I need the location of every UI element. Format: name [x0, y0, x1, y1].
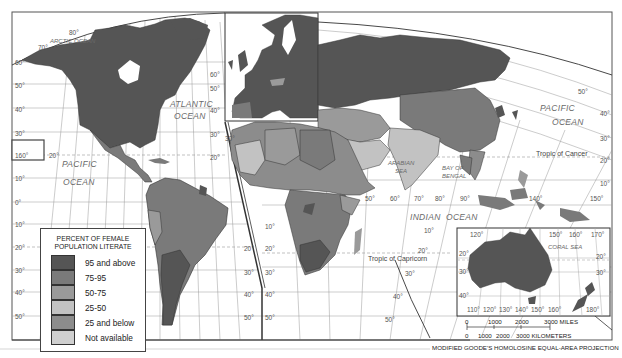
legend-label: 25 and below — [85, 318, 134, 328]
lat-label: 50° — [15, 83, 25, 90]
arctic-ocean-label: ARCTIC OCEAN — [50, 38, 95, 44]
legend-item: 95 and above — [51, 255, 135, 270]
lon-label: 180° — [586, 307, 599, 314]
lat-label: 50° — [385, 317, 395, 324]
legend: PERCENT OF FEMALE POPULATION LITERATE 95… — [40, 228, 146, 352]
indian-ocean-label-2: OCEAN — [446, 213, 478, 222]
scale-label: 1000 — [478, 332, 492, 339]
lat-label: 40° — [393, 294, 403, 301]
atlantic-ocean-label-2: OCEAN — [174, 112, 206, 121]
lat-label: 40° — [600, 111, 610, 118]
legend-item: 25 and below — [51, 315, 134, 330]
pacific-west-label-1: PACIFIC — [62, 160, 97, 169]
legend-swatch — [51, 285, 75, 300]
lat-label: 10° — [15, 222, 25, 229]
lat-label: 30° — [225, 136, 235, 143]
lat-label: 30° — [405, 271, 415, 278]
lon-label: 150° — [549, 232, 562, 239]
lon-label: 140° — [515, 307, 528, 314]
lat-label: 20° — [244, 246, 254, 253]
lat-label: 20° — [210, 155, 220, 162]
lat-label: 70° — [38, 45, 48, 52]
indian-10-label: 10° — [424, 228, 434, 235]
lat-label: 40° — [210, 108, 220, 115]
arabian-sea-label-1: ARABIAN — [388, 160, 414, 166]
lat-label: 40° — [459, 293, 469, 300]
scale-label: 2000 — [496, 332, 510, 339]
india — [388, 128, 440, 190]
lon-label: 120° — [483, 307, 496, 314]
lat-label: 30° — [600, 136, 610, 143]
legend-label: 25-50 — [85, 303, 106, 313]
lon-label: 150° — [590, 196, 603, 203]
lat-label: 30° — [15, 131, 25, 138]
arabian-sea-label-2: SEA — [395, 168, 407, 174]
lat-label: 50° — [244, 315, 254, 322]
lon-label: 170° — [591, 232, 604, 239]
lat-label: 50° — [265, 315, 275, 322]
pacific-west-label-2: OCEAN — [63, 178, 95, 187]
lat-label: 20° — [418, 248, 428, 255]
scale-label: 3000 KILOMETERS — [516, 332, 571, 339]
coral-sea-label: CORAL SEA — [548, 244, 582, 250]
projection-label: MODIFIED GOODE'S HOMOLOSINE EQUAL-AREA P… — [432, 344, 619, 351]
lat-label: 10° — [15, 176, 25, 183]
madagascar — [354, 228, 362, 255]
lat-label: 40° — [265, 292, 275, 299]
legend-item: Not available — [51, 330, 133, 345]
lon-label: 70° — [414, 196, 424, 203]
scale-label: 2000 — [515, 318, 529, 325]
lat-label: 50° — [578, 89, 588, 96]
lat-label: 40° — [15, 107, 25, 114]
lat-label: 40° — [15, 290, 25, 297]
atlantic-ocean-label-1: ATLANTIC — [170, 100, 213, 109]
lon-label: 120° — [470, 232, 483, 239]
lat-label: 60° — [15, 60, 25, 67]
lon-label: 110° — [467, 307, 480, 314]
legend-swatch — [51, 270, 75, 285]
tropic-of-capricorn-label: Tropic of Capricorn — [368, 255, 427, 262]
legend-swatch — [51, 300, 75, 315]
lon-label: 90° — [460, 196, 470, 203]
lat-label: 30° — [210, 132, 220, 139]
lat-label: 50° — [210, 86, 220, 93]
lat-label: 30° — [15, 268, 25, 275]
lat-label: 0° — [15, 200, 21, 207]
tropic-of-cancer-label: Tropic of Cancer — [536, 150, 587, 157]
legend-label: 50-75 — [85, 288, 106, 298]
lat-label: 20° — [600, 158, 610, 165]
lat-label: 10° — [600, 181, 610, 188]
lat-label: 30° — [265, 270, 275, 277]
lat-label: 30° — [244, 270, 254, 277]
legend-item: 25-50 — [51, 300, 106, 315]
legend-label: 95 and above — [85, 258, 135, 268]
lat-label: 50° — [15, 314, 25, 321]
lon-label: 50° — [365, 196, 375, 203]
scale-bar — [467, 323, 550, 330]
lat-label: 20° — [596, 254, 606, 261]
legend-title-line2: POPULATION LITERATE — [41, 243, 145, 251]
lon-label: 60° — [390, 196, 400, 203]
bay-of-bengal-label-1: BAY OF — [442, 165, 463, 171]
lat-label: 30° — [459, 269, 469, 276]
lon-label: 140° — [529, 196, 542, 203]
lon-label: 130° — [499, 307, 512, 314]
lon-label: 150° — [531, 307, 544, 314]
lat-label: 20° — [49, 153, 59, 160]
legend-swatch — [51, 255, 75, 270]
lat-label: 20° — [15, 245, 25, 252]
hawaii-160-label: 160° — [15, 153, 28, 160]
scale-label: 1000 — [488, 318, 502, 325]
lon-label: 160° — [548, 307, 561, 314]
lat-label: 60° — [210, 72, 220, 79]
legend-swatch — [51, 330, 75, 345]
legend-title-line1: PERCENT OF FEMALE — [41, 235, 145, 243]
legend-label: 75-95 — [85, 273, 106, 283]
lat-label: 20° — [459, 251, 469, 258]
scale-label: 3000 MILES — [544, 318, 578, 325]
scale-label: 0 — [465, 318, 468, 325]
lat-label: 30° — [596, 270, 606, 277]
pacific-east-label-2: OCEAN — [552, 118, 584, 127]
lat-label: 40° — [244, 292, 254, 299]
indian-ocean-label-1: INDIAN — [410, 213, 441, 222]
